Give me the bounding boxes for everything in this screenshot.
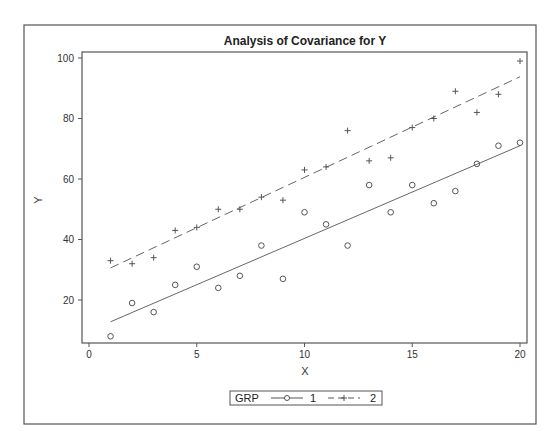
x-tick-label: 10 — [299, 349, 311, 360]
legend-title: GRP — [235, 392, 259, 404]
x-tick-label: 5 — [194, 349, 200, 360]
outer-frame — [24, 25, 536, 424]
x-tick-label: 0 — [86, 349, 92, 360]
legend-label-1: 1 — [310, 392, 316, 404]
y-tick-label: 20 — [63, 295, 75, 306]
legend: GRP 1 2 — [230, 391, 382, 405]
x-tick-label: 15 — [407, 349, 419, 360]
y-axis-label: Y — [32, 196, 44, 204]
chart-title: Analysis of Covariance for Y — [224, 34, 387, 48]
legend-label-2: 2 — [370, 392, 376, 404]
legend-marker-circle-icon — [285, 396, 290, 401]
x-axis-label: X — [301, 365, 309, 377]
ancova-chart: Analysis of Covariance for Y 05101520 20… — [0, 0, 557, 431]
x-tick-label: 20 — [514, 349, 526, 360]
y-tick-label: 40 — [63, 234, 75, 245]
y-tick-label: 80 — [63, 113, 75, 124]
y-tick-label: 100 — [57, 53, 74, 64]
y-tick-label: 60 — [63, 174, 75, 185]
